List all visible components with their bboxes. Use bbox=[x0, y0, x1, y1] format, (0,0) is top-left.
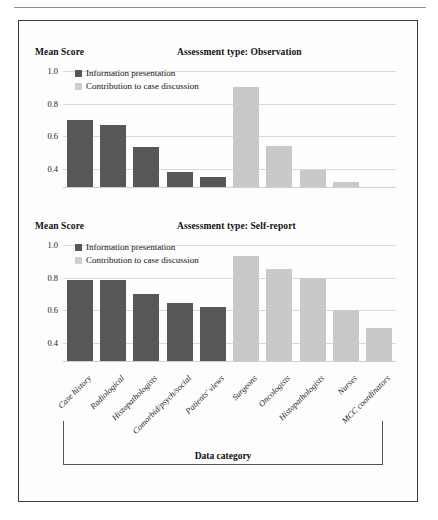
y-axis-tick-label: 0.8 bbox=[47, 99, 58, 109]
x-axis-category-label: Surgeons bbox=[230, 373, 259, 402]
bar bbox=[300, 170, 326, 188]
page-horizontal-rule bbox=[14, 7, 426, 8]
legend-label-information-presentation: Information presentation bbox=[86, 242, 175, 252]
y-axis-tick-label: 0.8 bbox=[47, 273, 58, 283]
panel-header-observation: Mean Score Assessment type: Observation bbox=[19, 47, 417, 63]
panel-header-self-report: Mean Score Assessment type: Self-report bbox=[19, 221, 417, 237]
bar bbox=[133, 147, 159, 188]
legend-item-information-presentation: Information presentation bbox=[75, 67, 199, 79]
panel-title-observation: Assessment type: Observation bbox=[177, 47, 302, 57]
legend-item-information-presentation: Information presentation bbox=[75, 241, 199, 253]
legend-label-information-presentation: Information presentation bbox=[86, 68, 175, 78]
legend-self-report: Information presentation Contribution to… bbox=[75, 241, 199, 267]
bar bbox=[266, 146, 292, 188]
x-axis-category-label: Case history bbox=[55, 373, 92, 410]
chart-panel-self-report: Mean Score Assessment type: Self-report … bbox=[19, 221, 417, 373]
bar bbox=[366, 328, 392, 362]
panel-title-self-report: Assessment type: Self-report bbox=[177, 221, 296, 231]
bar bbox=[67, 280, 93, 362]
x-axis-category-label: Nurses bbox=[335, 373, 359, 397]
figure-frame: Mean Score Assessment type: Observation … bbox=[18, 20, 418, 502]
y-axis-tick-label: 0.6 bbox=[47, 131, 58, 141]
bar bbox=[300, 278, 326, 362]
legend-swatch-icon-light bbox=[75, 257, 82, 264]
bar bbox=[266, 269, 292, 362]
y-axis-tick-label: 0.4 bbox=[47, 338, 58, 348]
y-axis-tick-label: 1.0 bbox=[47, 240, 58, 250]
bar bbox=[233, 87, 259, 188]
legend-swatch-icon-light bbox=[75, 83, 82, 90]
legend-item-contribution-to-case-discussion: Contribution to case discussion bbox=[75, 80, 199, 92]
axis-baseline-observation bbox=[63, 187, 396, 188]
bar bbox=[333, 310, 359, 362]
legend-swatch-icon-dark bbox=[75, 70, 82, 77]
x-axis-group-label: Data category bbox=[63, 451, 383, 461]
bar bbox=[67, 120, 93, 188]
bar bbox=[100, 125, 126, 188]
bar bbox=[133, 294, 159, 362]
bar bbox=[233, 256, 259, 362]
y-axis-tick-label: 1.0 bbox=[47, 66, 58, 76]
y-axis-tick-label: 0.4 bbox=[47, 164, 58, 174]
bar bbox=[167, 303, 193, 362]
legend-label-contribution-to-case-discussion: Contribution to case discussion bbox=[86, 255, 199, 265]
bar bbox=[200, 307, 226, 362]
axis-baseline-self-report bbox=[63, 361, 396, 362]
y-axis-title-observation: Mean Score bbox=[35, 47, 84, 57]
y-axis-tick-label: 0.6 bbox=[47, 305, 58, 315]
bar bbox=[167, 172, 193, 188]
legend-swatch-icon-dark bbox=[75, 244, 82, 251]
legend-observation: Information presentation Contribution to… bbox=[75, 67, 199, 93]
legend-label-contribution-to-case-discussion: Contribution to case discussion bbox=[86, 81, 199, 91]
legend-item-contribution-to-case-discussion: Contribution to case discussion bbox=[75, 254, 199, 266]
plot-area-observation: Information presentation Contribution to… bbox=[63, 63, 396, 188]
plot-area-self-report: Information presentation Contribution to… bbox=[63, 237, 396, 362]
bar bbox=[100, 280, 126, 362]
chart-panel-observation: Mean Score Assessment type: Observation … bbox=[19, 47, 417, 199]
y-axis-title-self-report: Mean Score bbox=[35, 221, 84, 231]
